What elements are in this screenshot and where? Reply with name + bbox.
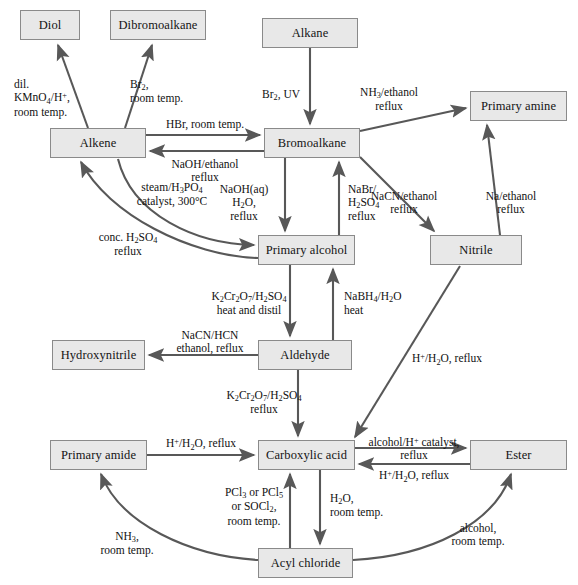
node-bromoalkane[interactable]: Bromoalkane <box>264 128 360 158</box>
reagent-label-na-ethanol: Na/ethanolreflux <box>486 190 536 216</box>
reagent-label-nh3-ethanol: NH3/ethanolreflux <box>360 86 418 113</box>
node-alkene[interactable]: Alkene <box>50 128 146 158</box>
node-diol[interactable]: Diol <box>20 10 80 40</box>
reagent-label-amide-hydrolysis: H+/H2O, reflux <box>166 437 236 452</box>
reagent-label-conc-h2so4: conc. H2SO4reflux <box>99 231 158 258</box>
node-nitrile[interactable]: Nitrile <box>430 235 522 265</box>
node-primary-amine[interactable]: Primary amine <box>470 91 567 121</box>
node-hydroxynitrile[interactable]: Hydroxynitrile <box>52 340 145 370</box>
reagent-label-dil-kmno4: dil.KMnO4/H+,room temp. <box>14 78 70 119</box>
reagent-label-nacn-ethanol: NaCN/ethanolreflux <box>371 190 437 216</box>
reagent-label-nacn-hcn: NaCN/HCNethanol, reflux <box>176 329 243 355</box>
reagent-label-naoh-aq: NaOH(aq)H2O,reflux <box>220 183 269 223</box>
node-dibromoalkane[interactable]: Dibromoalkane <box>110 10 206 40</box>
reagent-label-h2o-room-temp: H2O,room temp. <box>330 492 383 519</box>
node-alkane[interactable]: Alkane <box>262 18 358 48</box>
node-ester[interactable]: Ester <box>470 440 567 470</box>
reaction-scheme-diagram: Diol Dibromoalkane Alkane Primary amine … <box>0 0 578 585</box>
reagent-label-nitrile-hydrolysis: H+/H2O, reflux <box>412 352 482 367</box>
reagent-label-nh3-room-temp: NH3,room temp. <box>100 530 153 557</box>
node-primary-amide[interactable]: Primary amide <box>50 440 147 470</box>
reagent-label-esterification: alcohol/H+ catalyst,reflux <box>369 436 460 462</box>
reagent-label-hbr-room-temp: HBr, room temp. <box>166 118 244 131</box>
reagent-label-naoh-ethanol: NaOH/ethanolreflux <box>171 158 238 184</box>
node-carboxylic-acid[interactable]: Carboxylic acid <box>258 440 355 470</box>
reagent-label-br2-uv: Br2, UV <box>262 88 300 102</box>
reagent-label-nabh4: NaBH4/H2Oheat <box>344 290 401 317</box>
node-acyl-chloride[interactable]: Acyl chloride <box>258 548 353 578</box>
reagent-label-alcohol-room-temp: alcohol,room temp. <box>451 522 504 548</box>
reagent-label-k2cr2o7-distil: K2Cr2O7/H2SO4heat and distil <box>211 290 286 317</box>
reagent-label-pcl3-pcl5: PCl3 or PCl5or SOCl2,room temp. <box>225 486 283 528</box>
node-primary-alcohol[interactable]: Primary alcohol <box>258 235 355 265</box>
node-aldehyde[interactable]: Aldehyde <box>258 340 352 370</box>
reagent-label-br2-room-temp: Br2,room temp. <box>130 78 183 105</box>
arrow-nitrile-to-primary-amine <box>487 125 500 235</box>
reagent-label-ester-hydrolysis: H+/H2O, reflux <box>379 469 449 484</box>
reagent-label-nabr-h2so4: NaBr/H2SO4reflux <box>348 183 379 223</box>
reagent-label-k2cr2o7-reflux: K2Cr2O7/H2SO4reflux <box>226 389 301 416</box>
reagent-label-steam-h3po4: steam/H3PO4catalyst, 300°C <box>137 181 207 208</box>
